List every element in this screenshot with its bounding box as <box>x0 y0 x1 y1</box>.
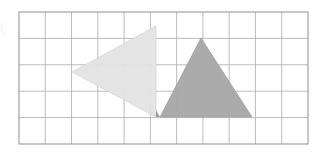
dark-triangle <box>160 38 252 117</box>
light-triangle <box>72 26 156 117</box>
grid-border <box>19 12 308 144</box>
figure-root <box>0 0 325 153</box>
square-grid <box>19 12 308 144</box>
grid-diagram-canvas <box>0 0 325 153</box>
triangle-overlap-region <box>156 110 160 117</box>
